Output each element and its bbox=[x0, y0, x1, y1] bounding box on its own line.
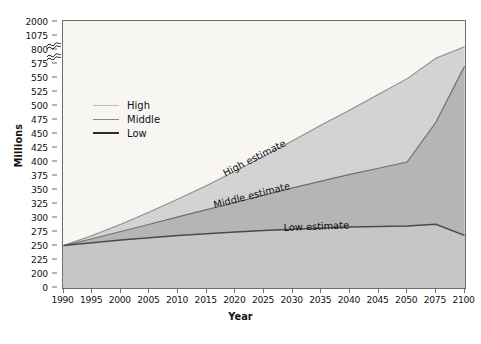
x-tick-mark bbox=[177, 289, 178, 293]
x-tick-label: 2005 bbox=[137, 294, 159, 305]
x-tick-mark bbox=[464, 289, 465, 293]
y-tick-mark bbox=[52, 20, 57, 21]
legend-swatch-low bbox=[93, 132, 119, 134]
y-tick-label: 2000 bbox=[25, 16, 48, 25]
x-axis-title: Year bbox=[0, 311, 481, 322]
x-tick-mark bbox=[234, 289, 235, 293]
x-tick-label: 2035 bbox=[309, 294, 331, 305]
y-tick-label: 400 bbox=[31, 156, 48, 165]
x-tick-label: 2040 bbox=[338, 294, 360, 305]
legend-label-low: Low bbox=[127, 128, 147, 139]
y-tick-label: 0 bbox=[42, 282, 48, 291]
x-tick-label: 2100 bbox=[452, 294, 474, 305]
y-tick-label: 375 bbox=[31, 170, 48, 179]
y-tick-mark bbox=[52, 132, 57, 133]
y-tick-mark bbox=[52, 34, 57, 35]
x-tick-label: 1995 bbox=[80, 294, 102, 305]
x-tick-mark bbox=[63, 289, 64, 293]
legend-item-high[interactable]: High bbox=[93, 98, 160, 112]
x-tick-label: 2000 bbox=[109, 294, 131, 305]
legend-swatch-high bbox=[93, 105, 119, 106]
y-tick-mark bbox=[52, 286, 57, 287]
y-tick-label: 500 bbox=[31, 100, 48, 109]
x-tick-label: 2010 bbox=[166, 294, 188, 305]
y-tick-label: 1075 bbox=[25, 30, 48, 39]
legend-swatch-middle bbox=[93, 119, 119, 120]
chart-figure: Millions 0200225250275300325350375400425… bbox=[0, 0, 481, 344]
y-tick-label: 350 bbox=[31, 184, 48, 193]
legend: High Middle Low bbox=[93, 98, 160, 140]
x-tick-label: 2015 bbox=[195, 294, 217, 305]
y-tick-label: 550 bbox=[31, 72, 48, 81]
annotation-low-estimate: Low estimate bbox=[283, 219, 349, 233]
axis-break-lower-icon bbox=[46, 53, 62, 65]
y-tick-mark bbox=[52, 90, 57, 91]
y-tick-mark bbox=[52, 118, 57, 119]
x-tick-mark bbox=[91, 289, 92, 293]
x-tick-mark bbox=[320, 289, 321, 293]
y-tick-mark bbox=[52, 160, 57, 161]
x-tick-label: 2020 bbox=[223, 294, 245, 305]
axis-break-upper-icon bbox=[46, 39, 62, 51]
y-tick-mark bbox=[52, 146, 57, 147]
x-tick-label: 2025 bbox=[252, 294, 274, 305]
y-tick-label: 525 bbox=[31, 86, 48, 95]
y-tick-label: 200 bbox=[31, 268, 48, 277]
y-axis-title: Millions bbox=[13, 106, 24, 186]
y-tick-mark bbox=[52, 188, 57, 189]
y-tick-label: 450 bbox=[31, 128, 48, 137]
x-tick-mark bbox=[406, 289, 407, 293]
x-tick-mark bbox=[263, 289, 264, 293]
y-tick-label: 300 bbox=[31, 212, 48, 221]
legend-item-low[interactable]: Low bbox=[93, 126, 160, 140]
y-tick-mark bbox=[52, 258, 57, 259]
legend-label-high: High bbox=[127, 100, 150, 111]
y-tick-mark bbox=[52, 174, 57, 175]
y-tick-mark bbox=[52, 230, 57, 231]
x-tick-mark bbox=[435, 289, 436, 293]
y-tick-label: 325 bbox=[31, 198, 48, 207]
x-tick-mark bbox=[349, 289, 350, 293]
x-tick-label: 2075 bbox=[424, 294, 446, 305]
y-tick-label: 475 bbox=[31, 114, 48, 123]
y-tick-mark bbox=[52, 244, 57, 245]
y-tick-mark bbox=[52, 272, 57, 273]
x-tick-mark bbox=[120, 289, 121, 293]
x-tick-label: 1990 bbox=[51, 294, 73, 305]
legend-item-middle[interactable]: Middle bbox=[93, 112, 160, 126]
y-tick-label: 275 bbox=[31, 226, 48, 235]
y-tick-label: 250 bbox=[31, 240, 48, 249]
y-tick-mark bbox=[52, 216, 57, 217]
x-tick-mark bbox=[148, 289, 149, 293]
x-tick-label: 2030 bbox=[281, 294, 303, 305]
plot-area: High Middle Low High estimate Middle est… bbox=[62, 20, 466, 289]
y-tick-mark bbox=[52, 76, 57, 77]
y-tick-mark bbox=[52, 202, 57, 203]
x-tick-mark bbox=[206, 289, 207, 293]
x-axis: 1990199520002005201020152020202520302035… bbox=[0, 292, 481, 310]
y-tick-label: 225 bbox=[31, 254, 48, 263]
y-tick-mark bbox=[52, 104, 57, 105]
x-tick-label: 2050 bbox=[395, 294, 417, 305]
x-tick-label: 2045 bbox=[366, 294, 388, 305]
legend-label-middle: Middle bbox=[127, 114, 160, 125]
y-tick-label: 425 bbox=[31, 142, 48, 151]
x-tick-mark bbox=[378, 289, 379, 293]
x-tick-mark bbox=[292, 289, 293, 293]
